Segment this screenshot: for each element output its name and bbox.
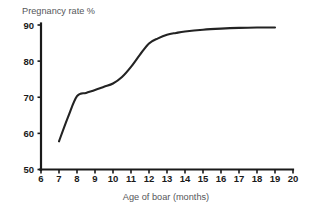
x-tick-label: 13 (162, 173, 173, 184)
x-tick-label: 19 (270, 173, 281, 184)
x-tick-label: 12 (144, 173, 155, 184)
x-tick-label: 16 (216, 173, 227, 184)
y-tick-label: 60 (23, 128, 34, 139)
x-tick-label: 7 (56, 173, 61, 184)
chart-container: Pregnancy rate % 5060708090 678910111213… (0, 0, 313, 211)
x-tick-label: 15 (198, 173, 209, 184)
y-tick-label: 70 (23, 92, 34, 103)
line-chart: Pregnancy rate % 5060708090 678910111213… (0, 0, 313, 211)
x-axis-tick-labels: 67891011121314151617181920 (38, 173, 298, 184)
y-tick-label: 50 (23, 164, 34, 175)
y-axis-tick-labels: 5060708090 (23, 20, 34, 176)
x-tick-label: 10 (108, 173, 119, 184)
y-tick-label: 80 (23, 56, 34, 67)
x-tick-label: 14 (180, 173, 191, 184)
x-tick-label: 6 (38, 173, 43, 184)
pregnancy-rate-line-series (59, 28, 275, 142)
x-tick-label: 18 (252, 173, 263, 184)
x-tick-label: 8 (74, 173, 79, 184)
x-tick-label: 20 (288, 173, 299, 184)
y-tick-label: 90 (23, 20, 34, 31)
x-axis-title: Age of boar (months) (123, 192, 209, 202)
chart-title: Pregnancy rate % (22, 6, 95, 16)
x-tick-label: 17 (234, 173, 245, 184)
x-tick-label: 11 (126, 173, 137, 184)
x-tick-label: 9 (92, 173, 97, 184)
